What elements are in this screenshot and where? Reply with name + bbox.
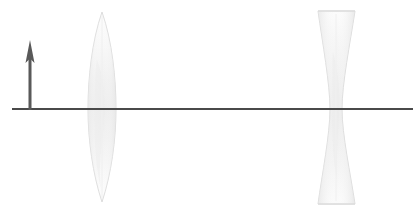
object-arrow [26,40,35,110]
concave-lens [318,11,355,204]
optics-diagram-canvas: Ray diagram: biconvex lens and biconcave… [0,0,419,212]
optics-diagram-svg [0,0,419,212]
object-arrow-shaft [29,58,32,110]
convex-lens [88,12,116,202]
